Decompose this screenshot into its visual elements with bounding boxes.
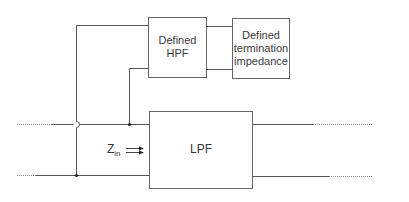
hpf-label-line1: Defined: [148, 34, 207, 47]
zin-label: Zin: [107, 142, 121, 158]
termination-label-line2: termination: [232, 42, 290, 55]
junction-dot-bottom: [75, 174, 78, 177]
hpf-label: Defined HPF: [148, 34, 207, 60]
termination-label-line1: Defined: [232, 29, 290, 42]
lpf-label-text: LPF: [190, 142, 212, 156]
hpf-label-line2: HPF: [148, 47, 207, 60]
junction-dot-top: [128, 123, 131, 126]
hpf-inner-feed-wire: [130, 69, 149, 125]
lpf-label: LPF: [149, 143, 253, 156]
zin-subscript: in: [114, 149, 120, 158]
filter-diagram: [0, 0, 409, 202]
zin-arrow-icon: [126, 147, 144, 155]
termination-label-line3: impedance: [232, 55, 290, 68]
termination-label: Defined termination impedance: [232, 29, 290, 68]
